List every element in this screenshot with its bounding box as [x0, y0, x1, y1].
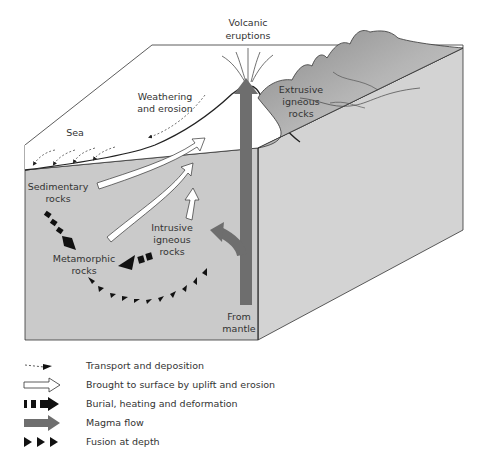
label-weathering: Weathering	[138, 91, 193, 102]
legend-item-burial: Burial, heating and deformation	[22, 394, 322, 413]
label-extrusive-2: igneous	[282, 96, 319, 107]
label-sedimentary: Sedimentary	[28, 181, 89, 192]
label-extrusive-3: rocks	[288, 108, 313, 119]
label-metamorphic: Metamorphic	[53, 253, 115, 264]
legend-item-magma: Magma flow	[22, 413, 322, 432]
legend-label: Burial, heating and deformation	[86, 398, 238, 409]
triangles-icon	[22, 434, 62, 450]
label-metamorphic-2: rocks	[71, 265, 96, 276]
legend: Transport and deposition Brought to surf…	[22, 356, 322, 451]
label-intrusive-3: rocks	[159, 246, 184, 257]
legend-label: Fusion at depth	[86, 436, 160, 447]
legend-item-fusion: Fusion at depth	[22, 432, 322, 451]
legend-label: Brought to surface by uplift and erosion	[86, 379, 275, 390]
label-volcanic-eruptions-2: eruptions	[226, 30, 271, 41]
label-volcanic-eruptions: Volcanic	[228, 17, 267, 28]
legend-label: Transport and deposition	[86, 360, 204, 371]
label-sea: Sea	[66, 127, 84, 138]
label-from-mantle: From	[227, 311, 251, 322]
label-intrusive-2: igneous	[153, 234, 190, 245]
dashed-black-arrow-icon	[22, 396, 62, 412]
label-sedimentary-2: rocks	[45, 193, 70, 204]
legend-item-uplift: Brought to surface by uplift and erosion	[22, 375, 322, 394]
label-extrusive: Extrusive	[279, 84, 323, 95]
legend-label: Magma flow	[86, 417, 144, 428]
grey-arrow-icon	[22, 415, 62, 431]
label-from-mantle-2: mantle	[222, 323, 255, 334]
label-weathering-2: and erosion	[137, 103, 193, 114]
dashed-arrow-icon	[22, 358, 62, 374]
legend-item-transport: Transport and deposition	[22, 356, 322, 375]
label-intrusive: Intrusive	[151, 222, 193, 233]
white-arrow-icon	[22, 377, 62, 393]
